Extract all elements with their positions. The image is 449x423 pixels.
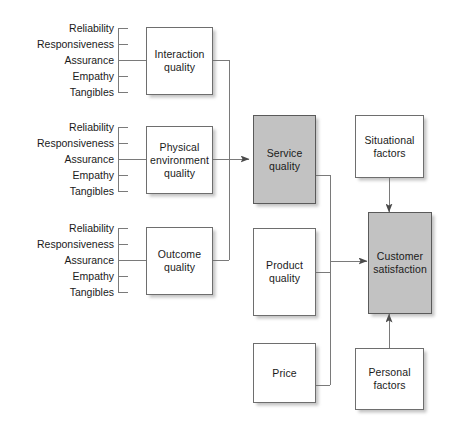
node-label: Personal factors <box>365 366 413 392</box>
node-interaction-quality[interactable]: Interaction quality <box>146 27 213 95</box>
dimension-label: Responsiveness <box>14 238 114 250</box>
node-price[interactable]: Price <box>253 343 316 403</box>
node-situational-factors[interactable]: Situational factors <box>355 115 424 178</box>
node-label: Product quality <box>263 259 306 285</box>
node-outcome-quality[interactable]: Outcome quality <box>146 227 213 295</box>
node-personal-factors[interactable]: Personal factors <box>355 348 424 410</box>
dimension-label: Responsiveness <box>14 137 114 149</box>
diagram-canvas: Reliability Responsiveness Assurance Emp… <box>0 0 449 423</box>
dimension-label: Tangibles <box>14 286 114 298</box>
dimension-label: Empathy <box>14 270 114 282</box>
node-customer-satisfaction[interactable]: Customer satisfaction <box>368 212 432 314</box>
dimension-label: Assurance <box>14 254 114 266</box>
dimension-label: Responsiveness <box>14 38 114 50</box>
node-service-quality[interactable]: Service quality <box>253 115 316 204</box>
node-label: Service quality <box>264 147 306 173</box>
node-product-quality[interactable]: Product quality <box>253 228 316 316</box>
node-physical-environment-quality[interactable]: Physical environment quality <box>146 126 213 194</box>
dimension-label: Reliability <box>14 222 114 234</box>
node-label: Price <box>269 367 299 380</box>
dimension-label: Empathy <box>14 169 114 181</box>
node-label: Interaction quality <box>151 48 207 74</box>
node-label: Situational factors <box>361 134 417 160</box>
dimension-label: Reliability <box>14 22 114 34</box>
dimension-label: Assurance <box>14 54 114 66</box>
dimension-label: Reliability <box>14 121 114 133</box>
dimension-label: Assurance <box>14 153 114 165</box>
node-label: Outcome quality <box>155 248 204 274</box>
dimension-label: Tangibles <box>14 86 114 98</box>
dimension-label: Empathy <box>14 70 114 82</box>
node-label: Physical environment quality <box>147 141 212 180</box>
node-label: Customer satisfaction <box>370 250 430 276</box>
dimension-label: Tangibles <box>14 185 114 197</box>
